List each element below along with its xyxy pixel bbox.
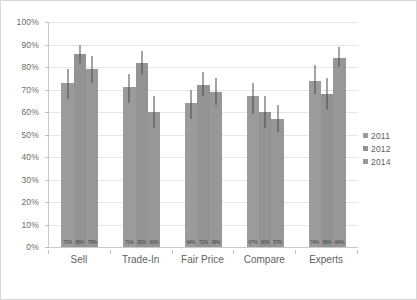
error-bar [215, 78, 216, 105]
bar-group: 71%82%60% [123, 22, 160, 247]
x-axis-tick [295, 250, 296, 254]
bar-value-label: 74% [310, 240, 319, 245]
y-axis-label: 50% [21, 130, 39, 140]
y-axis-tick [45, 135, 49, 136]
bar-slot: 72% [197, 22, 209, 247]
bar[interactable] [123, 87, 135, 247]
error-bar [314, 65, 315, 94]
bar-value-label: 69% [211, 240, 220, 245]
legend-swatch-icon [363, 159, 368, 164]
y-axis-tick [45, 67, 49, 68]
bar-slot: 60% [259, 22, 271, 247]
error-bar [327, 78, 328, 110]
bar-value-label: 72% [199, 240, 208, 245]
error-bar [252, 83, 253, 115]
x-axis-label: Experts [309, 254, 343, 265]
bar-slot: 79% [86, 22, 98, 247]
bar[interactable] [210, 92, 222, 247]
bar-value-label: 86% [75, 240, 84, 245]
bar[interactable] [333, 58, 345, 247]
y-axis-tick [45, 202, 49, 203]
error-bar [92, 56, 93, 83]
bar[interactable] [197, 85, 209, 247]
legend-label: 2012 [371, 144, 391, 154]
legend-label: 2011 [371, 131, 390, 141]
error-bar [79, 45, 80, 63]
bar[interactable] [148, 112, 160, 247]
y-axis-tick [45, 90, 49, 91]
y-axis-label: 100% [16, 17, 39, 27]
bar[interactable] [61, 83, 73, 247]
x-axis-tick [48, 250, 49, 254]
y-axis-tick [45, 157, 49, 158]
bar[interactable] [321, 94, 333, 247]
bar-value-label: 79% [88, 240, 97, 245]
legend-label: 2014 [371, 157, 391, 167]
bar-value-label: 73% [63, 240, 72, 245]
bar[interactable] [136, 63, 148, 248]
bar-value-label: 57% [273, 240, 282, 245]
legend-swatch-icon [363, 146, 368, 151]
bar[interactable] [185, 103, 197, 247]
y-axis: 100%90%80%70%60%50%40%30%20%10%0% [1, 22, 44, 248]
error-bar [191, 90, 192, 119]
y-axis-tick [45, 112, 49, 113]
y-axis-tick [45, 45, 49, 46]
y-axis-label: 10% [21, 220, 39, 230]
bar-slot: 86% [74, 22, 86, 247]
bar-value-label: 84% [335, 240, 344, 245]
legend-item-2014[interactable]: 2014 [363, 155, 413, 168]
bar-slot: 68% [321, 22, 333, 247]
bar[interactable] [247, 96, 259, 247]
y-axis-label: 20% [21, 197, 39, 207]
y-axis-tick [45, 225, 49, 226]
bar[interactable] [259, 112, 271, 247]
bar-slot: 73% [61, 22, 73, 247]
y-axis-label: 40% [21, 152, 39, 162]
bar-value-label: 64% [187, 240, 196, 245]
error-bar [129, 74, 130, 103]
y-axis-tick [45, 180, 49, 181]
error-bar [265, 96, 266, 128]
legend-item-2011[interactable]: 2011 [363, 129, 413, 142]
error-bar [203, 72, 204, 97]
x-axis-tick [233, 250, 234, 254]
plot-area: 73%86%79%71%82%60%64%72%69%67%60%57%74%6… [48, 22, 358, 248]
error-bar [67, 69, 68, 98]
bar-slot: 69% [210, 22, 222, 247]
bar-slot: 57% [271, 22, 283, 247]
legend-item-2012[interactable]: 2012 [363, 142, 413, 155]
bar-group: 67%60%57% [247, 22, 284, 247]
x-axis-label: Sell [71, 254, 88, 265]
bar-group: 64%72%69% [185, 22, 222, 247]
bar-slot: 74% [309, 22, 321, 247]
error-bar [277, 105, 278, 132]
bar-slot: 67% [247, 22, 259, 247]
bar[interactable] [74, 54, 86, 248]
y-axis-tick [45, 22, 49, 23]
bar[interactable] [309, 81, 321, 248]
x-axis-label: Compare [244, 254, 285, 265]
y-axis-label: 80% [21, 62, 39, 72]
x-axis-label: Trade-In [122, 254, 159, 265]
bar-slot: 84% [333, 22, 345, 247]
bar-group: 74%68%84% [309, 22, 346, 247]
error-bar [154, 96, 155, 128]
bar-value-label: 60% [261, 240, 270, 245]
error-bar [339, 47, 340, 67]
bar-value-label: 71% [125, 240, 134, 245]
bar-slot: 60% [148, 22, 160, 247]
x-axis: SellTrade-InFair PriceCompareExperts [48, 250, 358, 272]
y-axis-tick [45, 247, 49, 248]
chart-legend: 201120122014 [363, 129, 413, 168]
x-axis-tick [172, 250, 173, 254]
y-axis-label: 70% [21, 85, 39, 95]
bar-value-label: 68% [323, 240, 332, 245]
bar[interactable] [86, 69, 98, 247]
bar-slot: 64% [185, 22, 197, 247]
x-axis-tick [110, 250, 111, 254]
bar[interactable] [271, 119, 283, 247]
x-axis-tick [357, 250, 358, 254]
bar-slot: 82% [136, 22, 148, 247]
chart-container: 100%90%80%70%60%50%40%30%20%10%0% 73%86%… [0, 0, 417, 300]
